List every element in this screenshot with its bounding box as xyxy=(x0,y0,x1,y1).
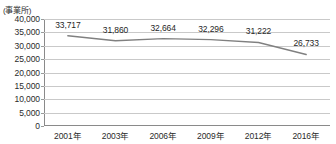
data-point-label: 31,222 xyxy=(246,26,271,36)
y-axis-tick-label: 10,000 xyxy=(15,94,40,104)
plot-area: 05,00010,00015,00020,00025,00030,00035,0… xyxy=(44,19,330,126)
x-axis-tick-label: 2003年 xyxy=(102,129,129,141)
y-axis-tick-label: 0 xyxy=(35,121,40,131)
x-axis-tick-label: 2016年 xyxy=(292,129,319,141)
series-line-establishments xyxy=(44,19,330,126)
data-point-label: 26,733 xyxy=(293,38,318,48)
y-axis-tick-label: 30,000 xyxy=(15,41,40,51)
x-axis-tick-label: 2006年 xyxy=(149,129,176,141)
y-axis-tick-label: 25,000 xyxy=(15,54,40,64)
data-point-label: 31,860 xyxy=(103,25,128,35)
data-point-label: 33,717 xyxy=(55,20,80,30)
x-axis-tick-label: 2012年 xyxy=(245,129,272,141)
data-point-label: 32,664 xyxy=(150,23,175,33)
y-axis-tick-label: 40,000 xyxy=(15,14,40,24)
line-chart: (事業所) 05,00010,00015,00020,00025,00030,0… xyxy=(0,0,336,144)
data-point-label: 32,296 xyxy=(198,24,223,34)
y-axis-tick-label: 15,000 xyxy=(15,81,40,91)
y-axis-tick-label: 5,000 xyxy=(19,108,40,118)
y-axis-tick-label: 20,000 xyxy=(15,68,40,78)
y-axis-tick-mark xyxy=(41,126,44,127)
x-axis-tick-label: 2001年 xyxy=(54,129,81,141)
x-axis-tick-label: 2009年 xyxy=(197,129,224,141)
y-axis-tick-label: 35,000 xyxy=(15,27,40,37)
